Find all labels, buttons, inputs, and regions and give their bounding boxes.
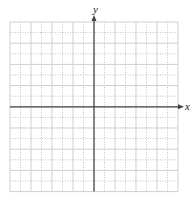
axes [10,15,184,192]
y-axis-label: y [92,3,98,15]
y-axis-arrow-icon [92,15,97,21]
coordinate-plane: y x [0,0,190,203]
x-axis-arrow-icon [178,104,184,109]
x-axis-label: x [184,100,190,112]
